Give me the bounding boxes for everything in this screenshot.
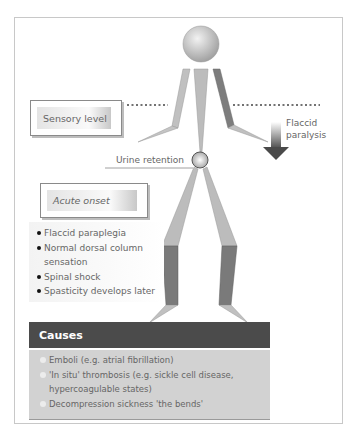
sensory-level-label: Sensory level [37,107,111,129]
right-foot [219,305,248,323]
left-foot [149,305,178,323]
cause-item: Decompression sickness 'the bends' [49,397,249,412]
right-upper-arm [213,69,234,128]
feature-item: Flaccid paraplegia [37,226,159,241]
left-thigh [162,167,198,246]
cause-item: Emboli (e.g. atrial fibrillation) [49,353,249,368]
right-thigh [203,167,237,246]
paralysis-arrow-shaft [271,122,281,148]
flaccid-paralysis-label-1: Flaccid [286,118,317,128]
bladder [192,152,208,168]
left-upper-arm [172,69,190,128]
feature-item: Normal dorsal column sensation [37,241,159,270]
head [183,26,219,62]
left-forearm [138,126,178,142]
sensory-level-box: Sensory level [30,100,122,136]
causes-list: Emboli (e.g. atrial fibrillation) 'In si… [29,350,270,420]
acute-onset-features: Flaccid paraplegia Normal dorsal column … [29,222,164,302]
acute-onset-label: Acute onset [47,190,137,211]
causes-header: Causes [29,322,270,348]
torso [194,69,208,152]
paralysis-arrow-head [263,147,289,160]
urine-retention-label: Urine retention [116,155,184,165]
feature-item: Spasticity develops later [37,284,159,299]
acute-onset-box: Acute onset [40,183,148,218]
flaccid-paralysis-label-2: paralysis [286,130,326,140]
cause-item: 'In situ' thrombosis (e.g. sickle cell d… [49,368,249,397]
right-forearm [228,125,268,142]
right-shin [219,246,237,305]
feature-item: Spinal shock [37,270,159,285]
left-shin [162,246,178,305]
